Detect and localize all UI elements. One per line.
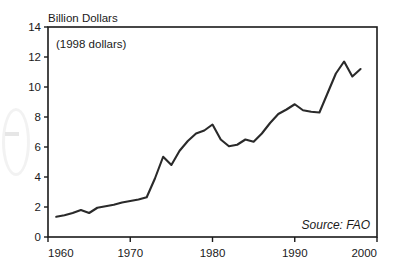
x-tick-label: 1980 — [200, 247, 226, 259]
y-tick-label: 6 — [35, 141, 41, 153]
y-tick-label: 2 — [35, 201, 41, 213]
y-tick-label: 0 — [35, 231, 41, 243]
y-tick-label: 4 — [35, 171, 42, 183]
y-tick-label: 8 — [35, 111, 41, 123]
chart-title: Billion Dollars — [48, 12, 118, 24]
x-axis-ticks: 19601970198019902000 — [48, 237, 377, 259]
x-tick-label: 1970 — [117, 247, 143, 259]
y-tick-label: 12 — [28, 51, 41, 63]
x-tick-label: 1960 — [48, 247, 74, 259]
data-series-line — [56, 62, 360, 217]
chart-figure: Billion Dollars (1998 dollars) Source: F… — [0, 0, 398, 271]
source-label: Source: FAO — [302, 218, 370, 232]
y-tick-label: 10 — [28, 81, 41, 93]
y-axis-ticks: 02468101214 — [28, 21, 48, 243]
y-tick-label: 14 — [28, 21, 41, 33]
line-chart: Billion Dollars (1998 dollars) Source: F… — [0, 0, 398, 271]
plot-frame — [48, 27, 377, 237]
chart-subtitle-note: (1998 dollars) — [56, 38, 126, 50]
x-tick-label: 1990 — [282, 247, 308, 259]
x-tick-label: 2000 — [351, 247, 377, 259]
